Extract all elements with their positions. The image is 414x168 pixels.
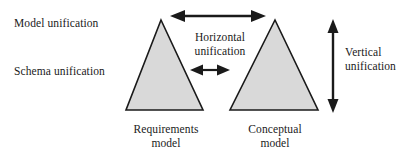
vertical-unification-label: Verticalunification <box>345 46 411 73</box>
schema-unification-label: Schema unification <box>14 65 105 79</box>
conceptual-model-caption: Conceptualmodel <box>229 123 321 150</box>
unification-diagram: Model unification Schema unification Hor… <box>0 0 414 168</box>
horizontal-unification-label: Horizontalunification <box>182 31 258 58</box>
model-unification-arrow <box>170 10 266 22</box>
schema-unification-arrow <box>190 65 230 76</box>
model-unification-label: Model unification <box>14 17 98 31</box>
vertical-unification-arrow <box>328 19 339 113</box>
requirements-model-caption: Requirementsmodel <box>120 123 212 150</box>
